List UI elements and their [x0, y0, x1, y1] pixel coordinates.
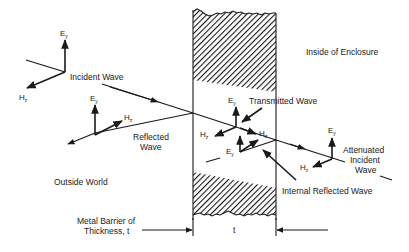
- attenuated-e-label: Ey: [328, 126, 336, 136]
- incident-h-label: Hz: [19, 93, 28, 103]
- attenuated-h-label: Hz: [300, 163, 309, 173]
- transmitted-pointer: [242, 108, 262, 122]
- reflected-wave-label-2: Wave: [140, 142, 162, 152]
- transmitted-h-field-vector: [215, 127, 236, 136]
- internal-reflected-h-label: Hz: [259, 129, 268, 139]
- metal-barrier: [193, 9, 276, 220]
- attenuated-wave-label-3: Wave: [355, 165, 377, 175]
- internal-reflected-pointer: [263, 150, 296, 180]
- transmitted-wave: Ey Hz Transmitted Wave: [193, 96, 318, 140]
- incident-e-label: Ey: [60, 29, 68, 39]
- internal-reflected-e-label: Ey: [226, 147, 234, 157]
- transmitted-propagation-arrow: [240, 128, 256, 134]
- internal-reflected-wave-label: Internal Reflected Wave: [282, 186, 373, 196]
- reflected-wave: Ey Hz Reflected Wave: [68, 94, 193, 152]
- thickness-symbol: t: [233, 225, 236, 235]
- attenuated-h-field-vector: [313, 159, 332, 167]
- reflected-e-label: Ey: [90, 94, 98, 104]
- transmitted-e-label: Ey: [228, 96, 236, 106]
- transmitted-h-label: Hz: [200, 130, 209, 140]
- barrier-upper-hatch: [193, 9, 276, 92]
- barrier-label-1: Metal Barrier of: [77, 216, 136, 226]
- attenuated-wave-label-1: Attenuated: [343, 145, 384, 155]
- incident-h-field-vector: [27, 72, 65, 88]
- outside-world-label: Outside World: [54, 177, 108, 187]
- wave-barrier-diagram: t Ey Hz Incident Wave Ey Hz Reflected Wa…: [0, 0, 409, 252]
- barrier-label-2: Thickness, t: [84, 226, 130, 236]
- barrier-lower-hatch: [193, 172, 276, 216]
- attenuated-wave-label-2: Incident: [350, 155, 380, 165]
- incident-wave: Ey Hz Incident Wave: [19, 29, 193, 113]
- thickness-dimension: t: [142, 218, 328, 236]
- reflected-wave-label-1: Reflected: [133, 132, 169, 142]
- incident-wave-label: Incident Wave: [70, 72, 124, 82]
- inside-enclosure-label: Inside of Enclosure: [306, 47, 379, 57]
- reflected-h-label: Hz: [124, 113, 133, 123]
- attenuated-wave: Ey Hz Attenuated Incident Wave: [276, 126, 392, 180]
- internal-reflected-h-vector: [240, 140, 258, 152]
- transmitted-wave-label: Transmitted Wave: [249, 96, 318, 106]
